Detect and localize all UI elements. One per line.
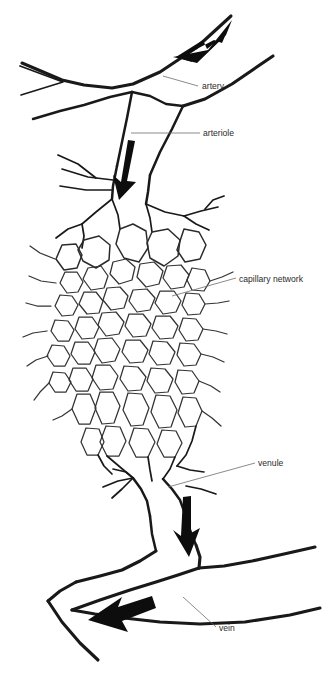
- label-vein-group: vein: [183, 597, 235, 633]
- artery-vessel: [20, 16, 273, 175]
- capillary-network: [23, 224, 233, 457]
- vein-vessel: [48, 545, 320, 660]
- label-venule: venule: [258, 458, 284, 468]
- artery-flow-arrow: [173, 20, 232, 63]
- arteriole-vessel: [56, 155, 224, 248]
- label-venule-group: venule: [168, 458, 284, 487]
- label-arteriole: arteriole: [203, 128, 234, 138]
- label-artery: artery: [202, 81, 225, 91]
- label-vein: vein: [219, 623, 235, 633]
- label-artery-group: artery: [163, 76, 225, 91]
- label-capillary-network: capillary network: [239, 274, 304, 284]
- vascular-network-diagram: artery arteriole capillary network venul…: [0, 0, 327, 676]
- label-capillary-network-group: capillary network: [172, 274, 304, 296]
- label-arteriole-group: arteriole: [131, 128, 234, 138]
